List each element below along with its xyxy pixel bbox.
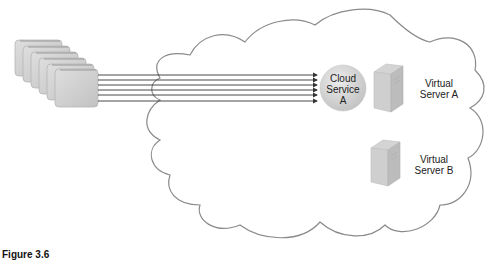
server-a-line-1: Virtual <box>411 78 467 89</box>
service-line-1: Cloud <box>322 73 364 84</box>
service-line-2: Service <box>322 84 364 95</box>
virtual-server-a-icon <box>374 64 403 112</box>
server-b-line-1: Virtual <box>406 154 462 165</box>
cloud-service-a-label: Cloud Service A <box>322 73 364 106</box>
figure-caption: Figure 3.6 <box>2 249 49 260</box>
virtual-server-b-label: Virtual Server B <box>406 154 462 176</box>
virtual-server-b-icon <box>371 140 400 186</box>
service-line-3: A <box>322 95 364 106</box>
server-b-line-2: Server B <box>406 165 462 176</box>
cloud-shape <box>147 9 484 237</box>
virtual-server-a-label: Virtual Server A <box>411 78 467 100</box>
server-a-line-2: Server A <box>411 89 467 100</box>
cloud-consumer-stack <box>15 40 98 107</box>
